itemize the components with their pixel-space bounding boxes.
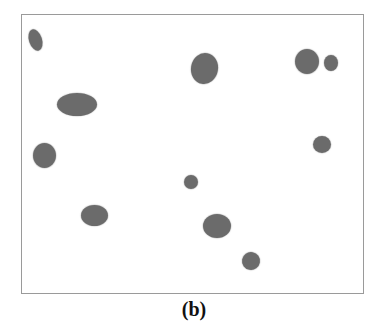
blob-6 — [295, 49, 319, 74]
blob-2 — [57, 93, 97, 116]
blob-3 — [33, 143, 56, 168]
blob-4 — [81, 205, 108, 226]
blob-9 — [184, 175, 198, 189]
figure-caption: (b) — [0, 298, 388, 320]
blob-8 — [313, 136, 331, 153]
blob-7 — [324, 55, 338, 71]
blob-10 — [203, 214, 231, 238]
